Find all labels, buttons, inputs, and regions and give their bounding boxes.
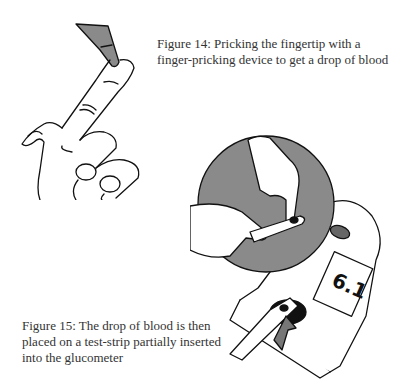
figure-15-caption: Figure 15: The drop of blood is then pla…: [22, 318, 232, 366]
figure-14-caption: Figure 14: Pricking the fingertip with a…: [157, 36, 397, 68]
figure-14-illustration: [0, 0, 160, 200]
